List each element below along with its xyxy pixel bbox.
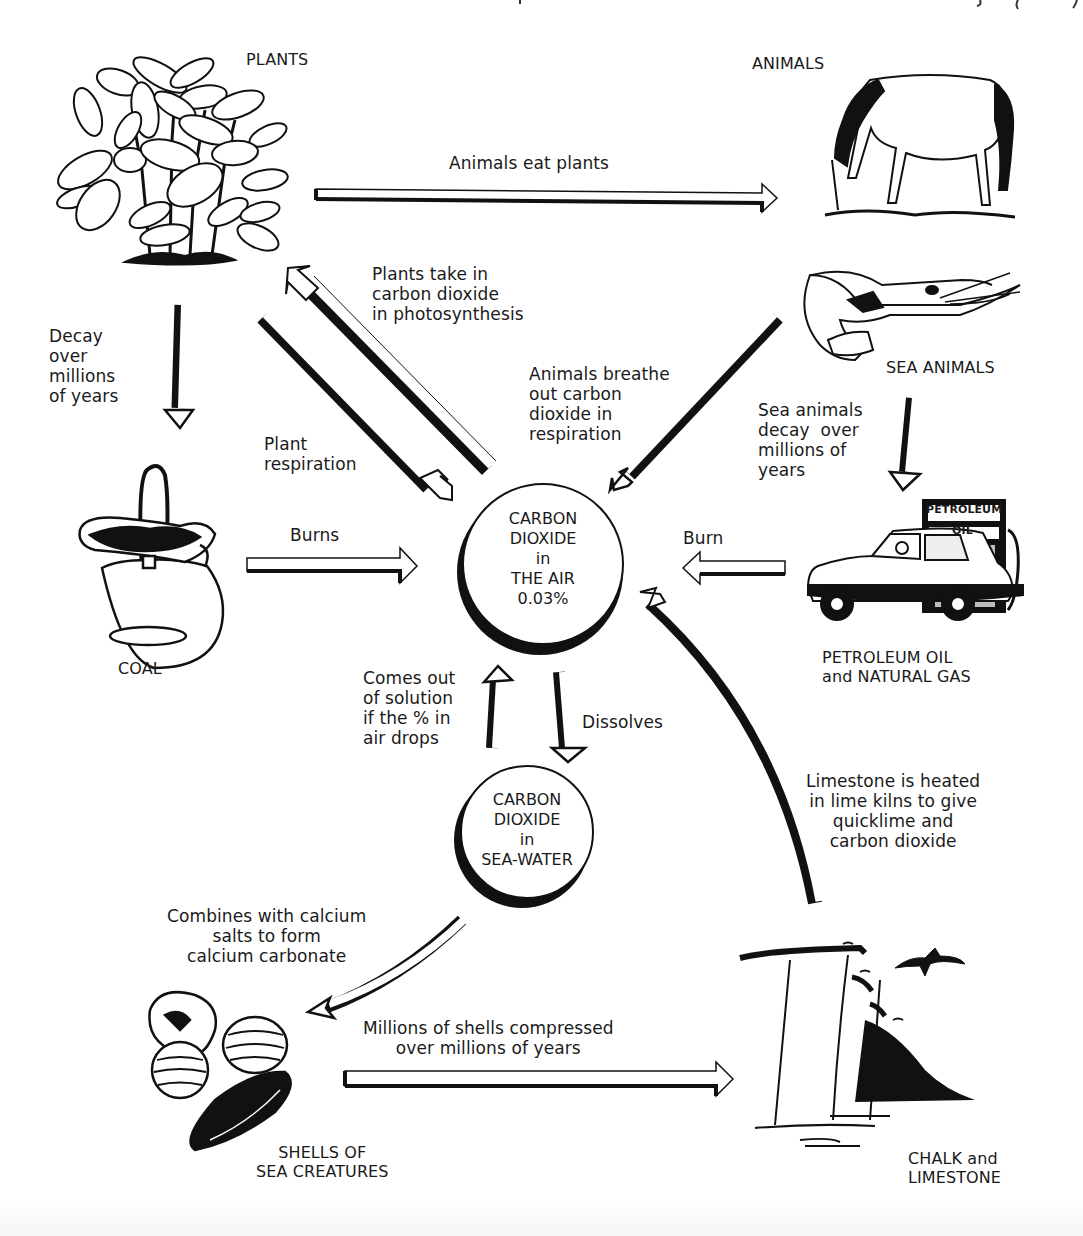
arrow-sea-decay [890,398,920,490]
edge-petroleum-burn: Burn [683,528,723,548]
co2-sea-text: CARBON DIOXIDE in SEA-WATER [467,790,587,870]
carbon-cycle-diagram: PLANTS ANIMALS SEA ANIMALS COAL PETROLEU… [0,0,1083,1236]
pump-sign-bottom: OIL [952,524,973,538]
pump-sign-top: PETROLEUM [926,503,1002,517]
shells-illustration [149,992,290,1150]
arrow-dissolves [552,672,585,762]
chalk-cliffs-illustration [740,943,975,1147]
label-chalk: CHALK and LIMESTONE [908,1149,1001,1187]
arrow-comes-out [484,666,512,748]
horse-illustration [825,75,1015,217]
label-coal: COAL [118,659,162,678]
edge-dissolves: Dissolves [582,712,663,732]
arrow-decay-plants [165,305,193,428]
edge-animals-eat-plants: Animals eat plants [449,153,609,173]
edge-comes-out: Comes out of solution if the % in air dr… [363,668,455,748]
edge-shells-compressed: Millions of shells compressed over milli… [363,1018,614,1058]
arrow-limestone-heated [640,588,820,903]
car-petrol-pump-illustration [808,500,1023,620]
edge-decay-plants: Decay over millions of years [49,326,118,406]
label-petroleum: PETROLEUM OIL and NATURAL GAS [822,648,971,686]
edge-combines-calcium: Combines with calcium salts to form calc… [167,906,366,966]
paper-edge [0,1200,1083,1236]
label-animals: ANIMALS [752,54,824,73]
arrow-petroleum-burn [683,552,785,584]
label-shells: SHELLS OF SEA CREATURES [256,1143,389,1181]
coal-scuttle-illustration [80,466,223,668]
edge-photosynthesis: Plants take in carbon dioxide in photosy… [372,264,524,324]
edge-coal-burns: Burns [290,525,339,545]
edge-sea-decay: Sea animals decay over millions of years [758,400,863,480]
arrow-coal-burns [247,548,417,583]
label-sea-animals: SEA ANIMALS [886,358,995,377]
edge-plant-respiration: Plant respiration [264,434,357,474]
edge-animal-respiration: Animals breathe out carbon dioxide in re… [529,364,670,444]
shrimp-illustration [804,272,1020,360]
edge-limestone-heated: Limestone is heated in lime kilns to giv… [806,771,980,851]
co2-air-text: CARBON DIOXIDE in THE AIR 0.03% [483,509,603,609]
plants-illustration [52,50,290,264]
arrow-shells-compressed [345,1062,733,1096]
arrow-animals-eat-plants [316,184,777,212]
label-plants: PLANTS [246,50,308,69]
cut-off-title-fragments [520,0,1077,9]
